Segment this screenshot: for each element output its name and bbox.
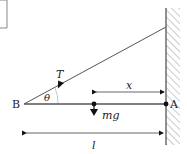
weight-arrow-icon — [90, 109, 98, 116]
label-tension: T — [56, 68, 65, 81]
label-l: l — [92, 139, 96, 152]
beam-diagram: B A T θ mg x l — [0, 0, 187, 154]
label-weight: mg — [102, 109, 119, 122]
label-x: x — [126, 79, 133, 92]
box-fragment — [0, 0, 7, 28]
point-a — [164, 102, 169, 107]
label-a: A — [169, 98, 179, 111]
label-angle: θ — [44, 92, 50, 103]
label-b: B — [12, 98, 20, 111]
angle-arc — [55, 88, 58, 104]
wall — [166, 8, 180, 145]
